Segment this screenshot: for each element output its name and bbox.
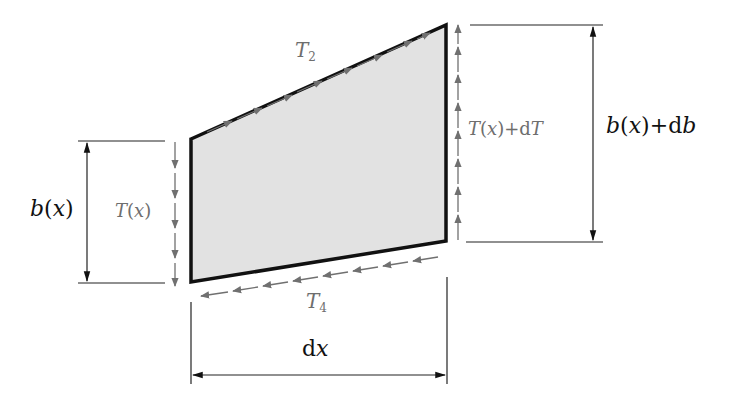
label-bx-var: x <box>53 196 65 221</box>
label-txdt-var: x <box>487 118 497 139</box>
label-txdt-func: T <box>468 118 480 139</box>
label-bxdb-close: ) <box>641 113 650 138</box>
element-trapezoid <box>191 25 446 282</box>
label-bx: b(x) <box>30 196 74 221</box>
label-t2: T2 <box>295 38 316 64</box>
label-bxdb-var: x <box>629 113 641 138</box>
label-bxdb-open: ( <box>620 113 629 138</box>
label-bx-open: ( <box>44 196 53 221</box>
label-bxdb-plus: +d <box>650 113 683 138</box>
label-txdt-open: ( <box>480 118 487 139</box>
label-txdt-plus: +d <box>504 118 531 139</box>
label-bxdb: b(x)+db <box>606 113 696 138</box>
label-bxdb-tail: b <box>682 113 696 138</box>
label-txdt-tail: T <box>531 118 543 139</box>
diagram-svg <box>0 0 734 403</box>
label-bxdb-func: b <box>606 113 620 138</box>
label-bx-close: ) <box>65 196 74 221</box>
label-t4-sub: 4 <box>319 301 327 315</box>
label-dx-var: x <box>316 336 328 361</box>
label-dx: dx <box>302 336 329 361</box>
label-dx-d: d <box>302 336 316 361</box>
label-t2-base: T <box>295 38 308 62</box>
label-tx-close: ) <box>144 200 151 221</box>
label-t4: T4 <box>306 289 327 315</box>
diagram-canvas: T2 T4 T(x) T(x)+dT b(x) b(x)+db dx <box>0 0 734 403</box>
label-bx-func: b <box>30 196 44 221</box>
label-tx-open: ( <box>127 200 134 221</box>
label-t4-base: T <box>306 289 319 313</box>
label-tx-func: T <box>115 200 127 221</box>
label-tx: T(x) <box>115 200 151 221</box>
label-t2-sub: 2 <box>308 50 316 64</box>
label-tx-var: x <box>134 200 144 221</box>
label-txdt: T(x)+dT <box>468 118 543 139</box>
